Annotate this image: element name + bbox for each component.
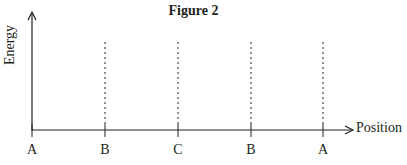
figure-title-text: Figure 2 [169,3,219,18]
y-axis-label: Energy [2,20,20,70]
figure-title: Figure 2 [0,3,407,19]
tick-label-a: A [22,142,42,158]
tick-label-c: C [168,142,188,158]
x-axis-label: Position [356,120,402,136]
tick-label-b: B [241,142,261,158]
energy-position-axes [0,0,407,165]
tick-label-a: A [313,142,333,158]
tick-label-b: B [95,142,115,158]
